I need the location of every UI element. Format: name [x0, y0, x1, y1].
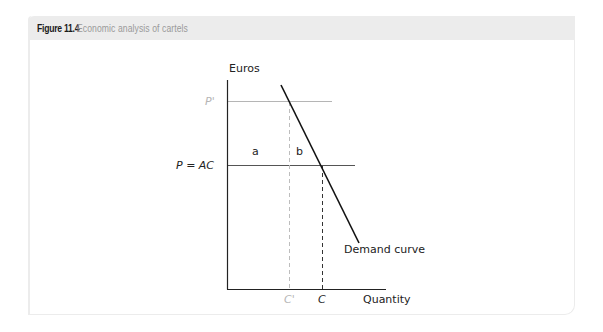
- demand-curve-label: Demand curve: [344, 243, 425, 256]
- region-b-label: b: [296, 145, 303, 158]
- y-axis-label: Euros: [229, 62, 260, 75]
- p-ac-label: P = AC: [176, 159, 214, 172]
- c-label: C: [318, 293, 326, 306]
- demand-curve: [281, 85, 359, 243]
- x-axis-label: Quantity: [363, 293, 411, 306]
- c-prime-label: C': [284, 293, 295, 306]
- cartel-diagram: Euros P' P = AC a b Demand curve C' C Qu…: [0, 0, 603, 332]
- region-a-label: a: [252, 145, 259, 158]
- p-prime-label: P': [205, 95, 215, 108]
